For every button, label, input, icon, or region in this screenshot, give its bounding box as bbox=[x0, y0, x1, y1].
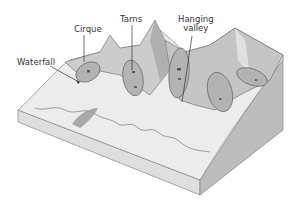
tarn-lake bbox=[87, 70, 90, 73]
label-waterfall: Waterfall bbox=[17, 58, 55, 67]
glacial-landforms-diagram: Cirque Tarns Hanging valley Waterfall bbox=[0, 0, 299, 209]
tarn-lake bbox=[178, 78, 181, 80]
tarn-lake bbox=[134, 86, 137, 88]
tarn-lake bbox=[255, 79, 258, 81]
block-diagram-illustration bbox=[0, 0, 299, 209]
label-cirque: Cirque bbox=[74, 25, 102, 34]
label-tarns: Tarns bbox=[120, 15, 142, 24]
label-hanging-valley-line2: valley bbox=[178, 24, 214, 33]
label-hanging-valley: Hanging valley bbox=[178, 15, 214, 33]
tarn-lake bbox=[219, 98, 222, 100]
tarn-lake bbox=[132, 71, 135, 73]
tarn-lake bbox=[177, 68, 181, 71]
